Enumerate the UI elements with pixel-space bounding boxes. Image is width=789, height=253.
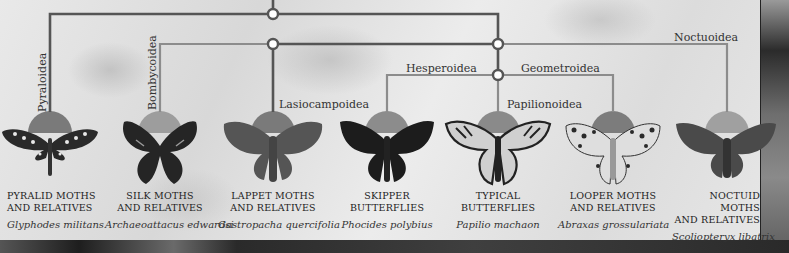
- group-lappet: LAPPET MOTHSAND RELATIVES Gastropacha qu…: [218, 190, 328, 230]
- group-common-name: TYPICALBUTTERFLIES: [443, 190, 553, 214]
- clade-label-noctuoidea: Noctuoidea: [674, 31, 738, 44]
- group-scientific-name: Abraxas grossulariata: [558, 219, 668, 230]
- group-scientific-name: Phocides polybius: [332, 219, 442, 230]
- clade-label-pyraloidea: Pyraloidea: [36, 53, 49, 112]
- node-4: [493, 70, 503, 80]
- node-3: [493, 39, 503, 49]
- clade-label-geometroidea: Geometroidea: [521, 62, 600, 75]
- group-scientific-name: Scoliopteryx libatrix: [672, 231, 760, 242]
- root-node: [268, 9, 278, 19]
- group-scientific-name: Papilio machaon: [443, 219, 553, 230]
- group-common-name: LAPPET MOTHSAND RELATIVES: [218, 190, 328, 214]
- group-scientific-name: Glyphodes militans: [7, 219, 107, 230]
- clade-label-hesperoidea: Hesperoidea: [406, 62, 477, 75]
- group-common-name: SILK MOTHSAND RELATIVES: [105, 190, 215, 214]
- group-silk: SILK MOTHSAND RELATIVES Archaeoattacus e…: [105, 190, 215, 230]
- group-common-name: LOOPER MOTHSAND RELATIVES: [558, 190, 668, 214]
- clade-label-lasiocampoidea: Lasiocampoidea: [279, 98, 369, 111]
- clade-label-papilionoidea: Papilionoidea: [507, 98, 582, 111]
- specimen-pyralid: [2, 129, 98, 176]
- group-common-name: PYRALID MOTHSAND RELATIVES: [7, 190, 107, 214]
- group-noctuid: NOCTUID MOTHSAND RELATIVES Scoliopteryx …: [672, 190, 764, 242]
- group-common-name: NOCTUID MOTHSAND RELATIVES: [672, 190, 760, 226]
- clade-label-bombycoidea: Bombycoidea: [146, 35, 159, 110]
- group-pyralid: PYRALID MOTHSAND RELATIVES Glyphodes mil…: [0, 190, 107, 230]
- node-2: [268, 39, 278, 49]
- light-branches: [160, 44, 727, 112]
- group-scientific-name: Gastropacha quercifolia: [218, 219, 328, 230]
- group-typical: TYPICALBUTTERFLIES Papilio machaon: [443, 190, 553, 230]
- group-common-name: SKIPPERBUTTERFLIES: [332, 190, 442, 214]
- group-looper: LOOPER MOTHSAND RELATIVES Abraxas grossu…: [558, 190, 668, 230]
- group-skipper: SKIPPERBUTTERFLIES Phocides polybius: [332, 190, 442, 230]
- group-scientific-name: Archaeoattacus edwardsi: [105, 219, 215, 230]
